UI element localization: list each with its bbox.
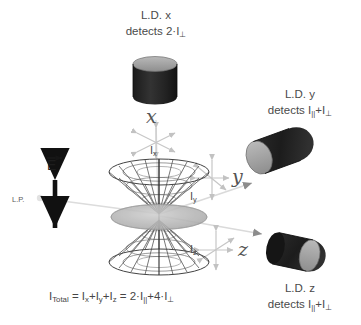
detector-z-detects: detects I||+I⊥ <box>248 297 352 313</box>
detector-cylinder-x <box>133 57 177 105</box>
detector-label-x: L.D. x detects 2·I⊥ <box>106 8 206 40</box>
intensity-label-y: Iy <box>190 190 197 204</box>
total-intensity-formula: ITotal = Ix+Iy+Iz = 2·I||+4·I⊥ <box>49 290 174 304</box>
detector-label-y: L.D. y detects I||+I⊥ <box>248 87 352 119</box>
axis-marker-z <box>200 231 234 270</box>
detector-z-name: L.D. z <box>248 281 352 295</box>
double-cone-model <box>109 159 209 275</box>
detector-cylinder-y <box>242 122 319 178</box>
intensity-label-z: Iz <box>190 243 197 257</box>
intensity-label-x: Ix <box>150 144 157 158</box>
detector-label-z: L.D. z detects I||+I⊥ <box>248 281 352 313</box>
axis-letter-x: x <box>146 105 157 127</box>
axis-letter-y: y <box>232 165 243 187</box>
axis-marker-y <box>196 160 229 200</box>
light-polarizer-label: L.P. <box>12 195 24 204</box>
detector-cylinder-z <box>263 231 328 275</box>
detector-y-detects: detects I||+I⊥ <box>248 103 352 119</box>
detector-x-detects: detects 2·I⊥ <box>106 24 206 40</box>
detector-y-name: L.D. y <box>248 87 352 101</box>
e-field-label: E <box>47 157 56 173</box>
diagram-canvas: L.D. x detects 2·I⊥ L.D. y detects I||+I… <box>0 0 361 325</box>
axis-letter-z: z <box>238 238 248 260</box>
detector-x-name: L.D. x <box>106 8 206 22</box>
